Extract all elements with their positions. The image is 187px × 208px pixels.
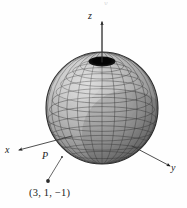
y-axis-label: y xyxy=(171,163,175,173)
point-p-marker xyxy=(61,156,63,158)
point-annotation xyxy=(46,156,63,183)
point-p-label: P xyxy=(42,151,48,161)
sphere-shadow xyxy=(82,90,174,178)
leader-line xyxy=(48,157,62,180)
figure-container: y x y z P (3, 1, −1) xyxy=(0,0,187,208)
leader-dot xyxy=(46,179,50,183)
cropped-text-artifact: y xyxy=(104,0,108,5)
z-axis-label: z xyxy=(88,11,92,21)
x-axis-label: x xyxy=(5,145,9,155)
y-axis-line xyxy=(132,146,170,166)
coordinate-label: (3, 1, −1) xyxy=(29,188,70,199)
sphere-coordinate-figure xyxy=(0,0,187,208)
sphere xyxy=(46,52,174,178)
